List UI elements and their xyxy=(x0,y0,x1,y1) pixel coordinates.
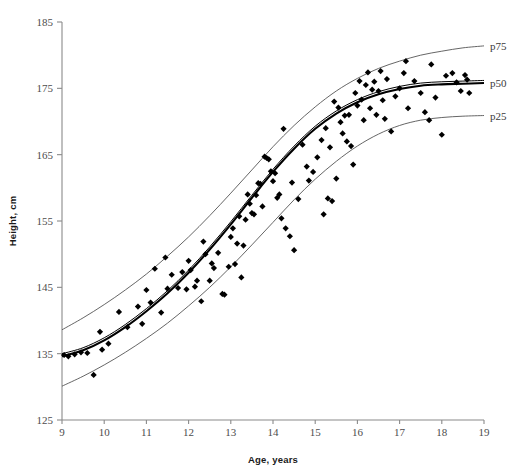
y-tick-label: 165 xyxy=(37,149,54,161)
data-point xyxy=(344,138,350,144)
data-point xyxy=(422,109,428,115)
growth-chart: 1251351451551651751859101112131415161718… xyxy=(0,0,522,474)
data-point xyxy=(169,272,175,278)
x-tick-label: 18 xyxy=(436,426,448,438)
chart-canvas: 1251351451551651751859101112131415161718… xyxy=(0,0,522,474)
percentile-curve-p75 xyxy=(62,46,484,330)
curve-label-p75: p75 xyxy=(490,40,507,52)
data-point xyxy=(139,321,145,327)
data-point xyxy=(304,164,310,170)
x-tick-label: 9 xyxy=(59,426,65,438)
percentile-curve-p50-upper-edge xyxy=(62,80,484,353)
data-point xyxy=(384,76,390,82)
data-point xyxy=(331,99,337,105)
data-point xyxy=(361,117,367,123)
data-point xyxy=(158,309,164,315)
data-point xyxy=(439,132,445,138)
data-point xyxy=(215,250,221,256)
y-tick-label: 125 xyxy=(37,414,54,426)
data-point xyxy=(449,70,455,76)
data-point xyxy=(234,240,240,246)
data-point xyxy=(207,278,213,284)
percentile-curve-p25 xyxy=(62,116,484,387)
data-point xyxy=(369,87,375,93)
data-point xyxy=(382,116,388,122)
data-point xyxy=(152,266,158,272)
data-point xyxy=(143,287,149,293)
data-point xyxy=(232,261,238,267)
data-point xyxy=(466,90,472,96)
percentile-curve-p50 xyxy=(62,83,484,356)
data-point xyxy=(443,73,449,79)
data-point xyxy=(291,247,297,253)
y-tick-label: 185 xyxy=(37,16,54,28)
data-point xyxy=(380,97,386,103)
data-point xyxy=(259,203,265,209)
data-point xyxy=(245,191,251,197)
data-point xyxy=(135,303,141,309)
data-point xyxy=(323,125,329,131)
x-tick-label: 11 xyxy=(141,426,152,438)
data-point xyxy=(318,137,324,143)
data-point xyxy=(346,112,352,118)
data-point xyxy=(194,278,200,284)
data-point xyxy=(350,162,356,168)
data-point xyxy=(418,90,424,96)
data-point xyxy=(240,242,246,248)
data-point xyxy=(392,93,398,99)
data-point xyxy=(230,225,236,231)
percentile-curves-group xyxy=(62,46,484,386)
data-point xyxy=(348,143,354,149)
data-point xyxy=(289,179,295,185)
y-tick-label: 145 xyxy=(37,281,54,293)
data-point xyxy=(91,372,97,378)
y-tick-label: 155 xyxy=(37,215,54,227)
data-point xyxy=(337,119,343,125)
x-tick-label: 16 xyxy=(352,426,364,438)
data-point xyxy=(314,154,320,160)
data-point xyxy=(280,126,286,132)
data-point xyxy=(228,234,234,240)
data-point xyxy=(432,95,438,101)
data-point xyxy=(116,309,122,315)
x-tick-label: 13 xyxy=(225,426,237,438)
data-point xyxy=(295,196,301,202)
data-point xyxy=(198,298,204,304)
data-point xyxy=(363,82,369,88)
data-point xyxy=(367,105,373,111)
data-point xyxy=(105,341,111,347)
curve-labels-group: p75p50p25 xyxy=(490,40,507,122)
y-tick-label: 175 xyxy=(37,82,54,94)
y-tick-label: 135 xyxy=(37,348,54,360)
curve-label-p50: p50 xyxy=(490,77,507,89)
x-tick-label: 14 xyxy=(268,426,280,438)
data-point xyxy=(405,105,411,111)
data-point xyxy=(242,217,248,223)
data-point xyxy=(99,347,105,353)
data-point xyxy=(340,130,346,136)
x-tick-label: 19 xyxy=(479,426,491,438)
data-point xyxy=(352,90,358,96)
data-point xyxy=(373,112,379,118)
data-point xyxy=(333,175,339,181)
data-point xyxy=(183,286,189,292)
data-point xyxy=(428,61,434,67)
x-tick-label: 15 xyxy=(310,426,322,438)
x-axis-title: Age, years xyxy=(248,454,298,465)
x-tick-label: 17 xyxy=(394,426,406,438)
axes-group: 1251351451551651751859101112131415161718… xyxy=(37,16,491,438)
curve-label-p25: p25 xyxy=(490,110,507,122)
data-point xyxy=(310,169,316,175)
y-axis-title: Height, cm xyxy=(7,196,18,247)
data-point xyxy=(238,274,244,280)
data-point xyxy=(327,144,333,150)
x-tick-label: 10 xyxy=(99,426,111,438)
data-point xyxy=(84,350,90,356)
x-tick-label: 12 xyxy=(183,426,194,438)
data-point xyxy=(283,225,289,231)
data-point xyxy=(426,117,432,123)
data-point xyxy=(186,258,192,264)
data-point xyxy=(226,264,232,270)
data-point xyxy=(458,88,464,94)
data-point xyxy=(287,233,293,239)
